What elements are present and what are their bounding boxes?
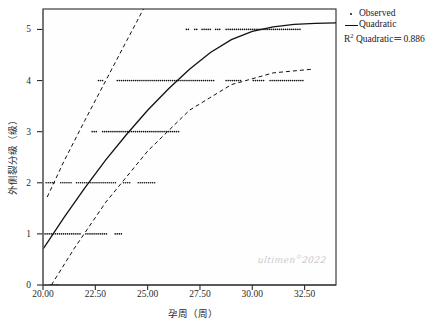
- x-tick-label: 22.50: [85, 289, 106, 299]
- r-squared-annotation: R2 Quadratic＝0.886: [344, 32, 428, 45]
- y-axis-title: 外侧裂分级（级）: [5, 95, 19, 215]
- x-axis-title: 孕周（周）: [168, 306, 218, 320]
- watermark: ultimen©2022: [257, 253, 327, 265]
- r2-value-text: Quadratic＝0.886: [354, 35, 425, 45]
- scatter-plot-canvas: [0, 0, 429, 326]
- y-tick-label: 4: [17, 76, 31, 86]
- watermark-year: 2022: [301, 255, 327, 265]
- chart-container: 20.0022.5025.0027.5030.0032.50 012345 孕周…: [0, 0, 429, 326]
- y-tick-label: 2: [17, 178, 31, 188]
- y-tick-label: 1: [17, 229, 31, 239]
- y-tick-label: 0: [17, 280, 31, 290]
- x-tick-label: 30.00: [242, 289, 263, 299]
- y-tick-label: 3: [17, 127, 31, 137]
- observed-marker-icon: [344, 9, 359, 19]
- legend-item-observed: Observed: [344, 8, 428, 19]
- x-tick-label: 25.00: [137, 289, 158, 299]
- legend-label-observed: Observed: [359, 8, 395, 19]
- x-tick-label: 27.50: [189, 289, 210, 299]
- plot-frame: [43, 9, 336, 285]
- x-tick-label: 32.50: [294, 289, 315, 299]
- legend-item-quadratic: Quadratic: [344, 19, 428, 30]
- y-tick-label: 5: [17, 24, 31, 34]
- chart-legend: Observed Quadratic R2 Quadratic＝0.886: [344, 8, 428, 46]
- watermark-name: ultimen: [257, 255, 296, 265]
- legend-label-quadratic: Quadratic: [359, 19, 396, 30]
- x-tick-label: 20.00: [32, 289, 53, 299]
- quadratic-line-icon: [344, 20, 359, 30]
